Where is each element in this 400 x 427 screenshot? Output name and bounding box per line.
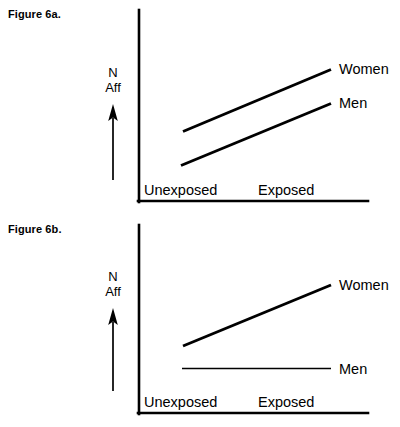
figure-6a-series-label-women: Women [339, 61, 389, 77]
figure-6b-y-axis-label-line1: N [108, 269, 117, 284]
figure-6b-plot: N Aff Women Men Unexposed Exposed [0, 214, 400, 427]
figure-6a-y-axis-label-line1: N [108, 65, 117, 80]
up-arrow-icon [108, 308, 118, 391]
figure-6a-y-axis-label-line2: Aff [105, 80, 121, 95]
figure-6b-x-tick-unexposed: Unexposed [144, 394, 217, 410]
figure-6b-y-axis-label-line2: Aff [105, 284, 121, 299]
figure-6a-series-line-women [183, 70, 331, 132]
figure-6b-series-label-men: Men [339, 361, 367, 377]
figure-6b-series-label-women: Women [339, 277, 389, 293]
figure-6a-plot: N Aff Women Men Unexposed Exposed [0, 0, 400, 213]
figure-6a-series-label-men: Men [339, 95, 367, 111]
up-arrow-icon [108, 104, 118, 180]
figure-6a-block: Figure 6a. N Aff Women Men Unexposed Exp… [0, 0, 400, 213]
figure-6b-x-tick-exposed: Exposed [258, 394, 314, 410]
figure-6a-x-tick-unexposed: Unexposed [144, 182, 217, 198]
figure-6b-block: Figure 6b. N Aff Women Men Unexposed Exp… [0, 214, 400, 427]
figure-6b-series-line-women [183, 285, 331, 346]
figure-6a-x-tick-exposed: Exposed [258, 182, 314, 198]
figure-6a-series-line-men [181, 104, 331, 166]
